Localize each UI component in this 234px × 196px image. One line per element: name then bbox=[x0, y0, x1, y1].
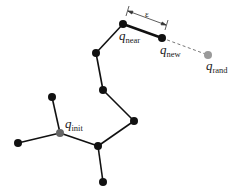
node bbox=[99, 178, 107, 186]
label-q-rand: qrand bbox=[206, 58, 228, 75]
node-q-near bbox=[119, 20, 127, 28]
epsilon-arrowhead-left bbox=[128, 11, 133, 14]
edge bbox=[98, 146, 103, 182]
label-q-near: qnear bbox=[119, 28, 140, 45]
tree-edges bbox=[18, 24, 134, 182]
label-q-init: qinit bbox=[65, 116, 83, 133]
edge bbox=[103, 90, 134, 121]
edge bbox=[18, 133, 60, 143]
rrt-tree-svg: ε qnear qnew qrand qinit bbox=[0, 0, 234, 196]
node bbox=[14, 139, 22, 147]
node bbox=[92, 49, 100, 57]
node bbox=[94, 142, 102, 150]
epsilon-label: ε bbox=[145, 9, 149, 19]
edge bbox=[60, 133, 98, 146]
node-q-new bbox=[158, 34, 166, 42]
edge bbox=[52, 97, 60, 133]
edge bbox=[96, 53, 103, 90]
node bbox=[48, 93, 56, 101]
rrt-diagram: ε qnear qnew qrand qinit bbox=[0, 0, 234, 196]
edge bbox=[98, 121, 134, 146]
node bbox=[130, 117, 138, 125]
tree-nodes bbox=[14, 20, 166, 186]
epsilon-arrowhead-right bbox=[161, 22, 166, 25]
node bbox=[99, 86, 107, 94]
node-q-init bbox=[56, 129, 64, 137]
